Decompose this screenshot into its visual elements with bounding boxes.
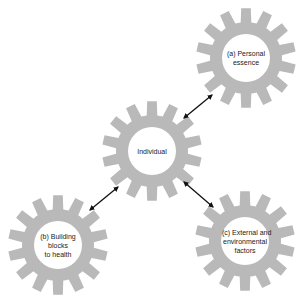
label-line: (a) Personal bbox=[223, 49, 269, 58]
gear-diagram: Individual (a) Personal essence (b) Buil… bbox=[0, 0, 305, 300]
label-line: (c) External and bbox=[222, 228, 268, 237]
label-line: (b) Building bbox=[35, 232, 81, 241]
label-line: blocks bbox=[35, 241, 81, 250]
label-line: factors bbox=[222, 246, 268, 255]
label-line: to health bbox=[35, 250, 81, 259]
label-line: essence bbox=[223, 58, 269, 67]
double-arrow-individual-to-building-blocks bbox=[90, 187, 118, 210]
gear-label-individual: Individual bbox=[129, 147, 175, 156]
double-arrow-individual-to-personal-essence bbox=[184, 95, 212, 118]
gear-label-personal-essence: (a) Personal essence bbox=[223, 49, 269, 67]
gear-label-external-factors: (c) External and environmental factors bbox=[222, 228, 268, 255]
double-arrow-individual-to-external-factors bbox=[184, 182, 213, 207]
label-line: environmental bbox=[222, 237, 268, 246]
label-line: Individual bbox=[129, 147, 175, 156]
gear-label-building-blocks: (b) Building blocks to health bbox=[35, 232, 81, 259]
